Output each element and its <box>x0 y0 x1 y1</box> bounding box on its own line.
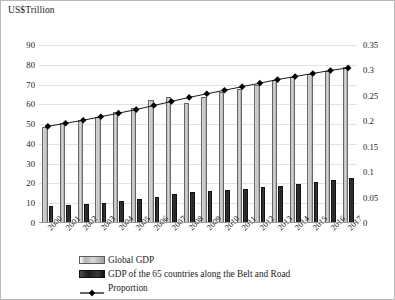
bar-group <box>286 45 304 223</box>
plot-area: 0102030405060708090 00.050.10.150.20.250… <box>39 45 357 223</box>
y-axis-tick-label: 30 <box>26 159 35 169</box>
bar-global-gdp <box>184 103 189 223</box>
secondary-y-axis-tick-label: 0.15 <box>363 142 378 152</box>
legend-swatch-global-gdp <box>79 256 105 264</box>
y-axis-tick-label: 60 <box>26 99 35 109</box>
bar-group <box>216 45 234 223</box>
bar-global-gdp <box>131 108 136 224</box>
bar-global-gdp <box>290 77 295 223</box>
y-axis-tick-label: 10 <box>26 198 35 208</box>
y-axis-tick-label: 0 <box>31 218 35 228</box>
bar-group <box>110 45 128 223</box>
y-axis-tick-label: 70 <box>26 80 35 90</box>
bar-group <box>198 45 216 223</box>
bar-global-gdp <box>254 85 259 223</box>
bar-group <box>39 45 57 223</box>
bar-belt-and-road-gdp <box>314 182 319 223</box>
secondary-y-axis-tick-label: 0.2 <box>363 116 374 126</box>
bar-global-gdp <box>325 71 330 223</box>
legend-label-proportion: Proportion <box>108 283 148 293</box>
y-axis-tick-label: 40 <box>26 139 35 149</box>
bar-global-gdp <box>42 127 47 223</box>
bar-group <box>269 45 287 223</box>
secondary-y-axis-tick-label: 0.1 <box>363 167 374 177</box>
bar-global-gdp <box>148 100 153 223</box>
bar-global-gdp <box>307 74 312 223</box>
bar-global-gdp <box>237 89 242 223</box>
bar-global-gdp <box>272 80 277 223</box>
bar-global-gdp <box>78 120 83 223</box>
bar-group <box>92 45 110 223</box>
bar-belt-and-road-gdp <box>331 180 336 223</box>
secondary-y-axis-tick-label: 0.05 <box>363 193 378 203</box>
bar-global-gdp <box>201 97 206 223</box>
bar-group <box>145 45 163 223</box>
secondary-y-axis-tick-label: 0.25 <box>363 91 378 101</box>
secondary-y-axis-tick-label: 0.3 <box>363 65 374 75</box>
bar-group <box>322 45 340 223</box>
bar-global-gdp <box>343 67 348 223</box>
bar-group <box>233 45 251 223</box>
bar-global-gdp <box>113 112 118 223</box>
legend-swatch-proportion <box>79 284 105 292</box>
bar-group <box>180 45 198 223</box>
secondary-y-axis-tick-label: 0.35 <box>363 40 378 50</box>
bar-belt-and-road-gdp <box>278 186 283 223</box>
y-axis-tick-label: 20 <box>26 178 35 188</box>
legend-item-belt-and-road-gdp: GDP of the 65 countries along the Belt a… <box>79 267 379 280</box>
bar-global-gdp <box>166 97 171 223</box>
bar-group <box>339 45 357 223</box>
bar-group <box>127 45 145 223</box>
bar-global-gdp <box>60 123 65 223</box>
bar-group <box>304 45 322 223</box>
bar-group <box>163 45 181 223</box>
y-axis-unit-label: US$Trillion <box>8 5 55 15</box>
bar-belt-and-road-gdp <box>296 184 301 223</box>
x-axis-line <box>39 222 357 223</box>
y-axis-tick-label: 80 <box>26 60 35 70</box>
legend-label-global-gdp: Global GDP <box>108 255 154 265</box>
legend-swatch-belt-and-road-gdp <box>79 270 105 278</box>
bar-group <box>251 45 269 223</box>
line-marker-icon <box>79 288 105 298</box>
bar-belt-and-road-gdp <box>349 178 354 223</box>
bar-group <box>57 45 75 223</box>
legend-item-global-gdp: Global GDP <box>79 253 379 266</box>
chart-legend: Global GDP GDP of the 65 countries along… <box>79 253 379 295</box>
bar-global-gdp <box>219 92 224 223</box>
y-axis-tick-label: 50 <box>26 119 35 129</box>
y-axis-tick-label: 90 <box>26 40 35 50</box>
chart-frame: US$Trillion 0102030405060708090 00.050.1… <box>0 0 395 300</box>
bar-global-gdp <box>95 117 100 223</box>
legend-label-belt-and-road-gdp: GDP of the 65 countries along the Belt a… <box>108 269 290 279</box>
legend-item-proportion: Proportion <box>79 281 379 294</box>
bar-group <box>74 45 92 223</box>
